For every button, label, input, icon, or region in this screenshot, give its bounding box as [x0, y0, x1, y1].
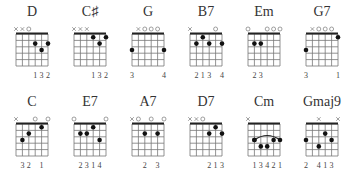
- finger-number: 1: [32, 71, 38, 80]
- finger-dot: [155, 131, 160, 136]
- finger-dot: [78, 131, 83, 136]
- open-string-icon: [278, 27, 282, 31]
- finger-number: 2: [193, 71, 199, 80]
- open-string-icon: [162, 117, 166, 121]
- open-string-icon: [265, 27, 269, 31]
- chord-diagram: Cm13421: [240, 94, 288, 180]
- finger-dot: [317, 144, 322, 149]
- finger-number: 1: [322, 161, 328, 170]
- chord-diagram: Em23: [240, 4, 288, 90]
- chord-diagram: G34: [124, 4, 172, 90]
- finger-dot: [207, 41, 212, 46]
- finger-dot: [130, 48, 135, 53]
- nut: [132, 123, 164, 125]
- finger-number: 4: [97, 161, 103, 170]
- muted-string-icon: [195, 117, 199, 121]
- finger-dot: [252, 138, 257, 143]
- finger-number: 1: [213, 161, 219, 170]
- finger-dot: [162, 48, 167, 53]
- finger-dot: [259, 41, 264, 46]
- open-string-icon: [201, 117, 205, 121]
- nut: [74, 33, 106, 35]
- finger-number: 2: [251, 71, 257, 80]
- finger-dot: [201, 35, 206, 40]
- finger-number: 2: [206, 161, 212, 170]
- finger-dot: [194, 41, 199, 46]
- open-string-icon: [104, 117, 108, 121]
- finger-number: 4: [161, 71, 167, 80]
- finger-dot: [265, 144, 270, 149]
- open-string-icon: [246, 27, 250, 31]
- nut: [190, 123, 222, 125]
- fretboard-grid: [124, 94, 172, 180]
- finger-number: 3: [84, 161, 90, 170]
- finger-dot: [213, 125, 218, 130]
- finger-number: 2: [303, 161, 309, 170]
- nut: [190, 33, 222, 35]
- finger-dot: [220, 41, 225, 46]
- finger-dot: [104, 35, 109, 40]
- muted-string-icon: [130, 117, 134, 121]
- finger-dot: [207, 131, 212, 136]
- chord-diagram: Gmaj92413: [298, 94, 346, 180]
- finger-number: 2: [77, 161, 83, 170]
- chord-diagram: A723: [124, 94, 172, 180]
- finger-number: 2: [142, 161, 148, 170]
- open-string-icon: [149, 27, 153, 31]
- finger-dot: [97, 138, 102, 143]
- open-string-icon: [27, 27, 31, 31]
- finger-number: 3: [329, 161, 335, 170]
- finger-number: 2: [45, 71, 51, 80]
- fretboard-grid: [8, 94, 56, 180]
- chord-diagram: B72134: [182, 4, 230, 90]
- finger-number: 2: [26, 161, 32, 170]
- finger-dot: [143, 131, 148, 136]
- muted-string-icon: [188, 27, 192, 31]
- open-string-icon: [72, 117, 76, 121]
- muted-string-icon: [317, 117, 321, 121]
- finger-dot: [271, 138, 276, 143]
- chord-diagram: D7213: [182, 94, 230, 180]
- finger-dot: [304, 138, 309, 143]
- chord-diagram: E72314: [66, 94, 114, 180]
- nut: [16, 33, 48, 35]
- finger-number: 1: [90, 161, 96, 170]
- finger-dot: [97, 41, 102, 46]
- muted-string-icon: [311, 27, 315, 31]
- finger-number: 1: [90, 71, 96, 80]
- finger-number: 2: [271, 161, 277, 170]
- finger-dot: [323, 131, 328, 136]
- muted-string-icon: [14, 27, 18, 31]
- open-string-icon: [272, 27, 276, 31]
- finger-number: 1: [200, 71, 206, 80]
- fretboard-grid: [240, 4, 288, 90]
- finger-number: 1: [39, 161, 45, 170]
- finger-number: 4: [219, 71, 225, 80]
- finger-number: 3: [219, 161, 225, 170]
- finger-number: 3: [97, 71, 103, 80]
- finger-number: 4: [264, 161, 270, 170]
- nut: [132, 33, 164, 35]
- finger-dot: [39, 125, 44, 130]
- open-string-icon: [136, 117, 140, 121]
- nut: [16, 123, 48, 125]
- finger-number: 3: [39, 71, 45, 80]
- chord-diagram: G731: [298, 4, 346, 90]
- finger-dot: [27, 131, 32, 136]
- nut: [248, 123, 280, 125]
- finger-number: 3: [258, 71, 264, 80]
- finger-number: 3: [303, 71, 309, 80]
- open-string-icon: [149, 117, 153, 121]
- open-string-icon: [323, 27, 327, 31]
- finger-number: 1: [251, 161, 257, 170]
- open-string-icon: [214, 27, 218, 31]
- muted-string-icon: [336, 117, 340, 121]
- finger-dot: [91, 125, 96, 130]
- finger-number: 3: [19, 161, 25, 170]
- finger-number: 3: [206, 71, 212, 80]
- finger-number: 3: [129, 71, 135, 80]
- open-string-icon: [317, 27, 321, 31]
- finger-dot: [33, 41, 38, 46]
- muted-string-icon: [72, 27, 76, 31]
- nut: [306, 33, 338, 35]
